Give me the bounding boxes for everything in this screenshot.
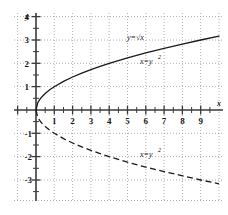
- x-tick-label-2: 2: [70, 116, 75, 126]
- y-tick-label-neg3: -3: [25, 175, 33, 185]
- sqrt-function-plot: 1 2 3 4 5 6 7 8 9 1 2 3 4 -1 -2 -3 y x y…: [0, 0, 228, 215]
- label-upper-base: x=y: [139, 57, 153, 66]
- x-tick-label-1: 1: [52, 116, 57, 126]
- x-tick-label-9: 9: [198, 116, 203, 126]
- figure-container: 1 2 3 4 5 6 7 8 9 1 2 3 4 -1 -2 -3 y x y…: [0, 0, 228, 215]
- label-lower-base: x=y: [139, 150, 153, 159]
- y-tick-label-3: 3: [25, 35, 30, 45]
- y-tick-label-1: 1: [25, 82, 30, 92]
- y-tick-labels-negative: -1 -2 -3: [25, 129, 33, 186]
- label-upper-exponent: 2: [158, 54, 161, 60]
- label-x-equals-y-squared-lower: x=y 2: [139, 147, 161, 159]
- x-tick-label-3: 3: [89, 116, 94, 126]
- x-tick-label-7: 7: [162, 116, 167, 126]
- y-tick-labels-positive: 1 2 3 4: [25, 12, 30, 92]
- y-tick-label-neg2: -2: [25, 152, 33, 162]
- y-tick-label-2: 2: [25, 59, 30, 69]
- x-tick-label-6: 6: [144, 116, 149, 126]
- label-x-equals-y-squared-upper: x=y 2: [139, 54, 161, 66]
- x-tick-label-4: 4: [107, 116, 112, 126]
- x-tick-label-8: 8: [180, 116, 185, 126]
- x-tick-labels: 1 2 3 4 5 6 7 8 9: [52, 116, 203, 126]
- x-tick-label-5: 5: [125, 116, 130, 126]
- x-axis-label: x: [216, 99, 221, 108]
- label-lower-exponent: 2: [158, 147, 161, 153]
- label-y-equals-sqrt-x: y=√x: [126, 33, 144, 42]
- y-tick-label-neg1: -1: [25, 129, 33, 139]
- y-axis-label: y: [24, 12, 29, 21]
